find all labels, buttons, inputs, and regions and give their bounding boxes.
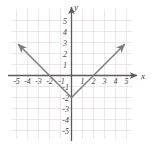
- x-tick-label: 3: [102, 77, 107, 86]
- y-tick-label: 1: [63, 61, 67, 70]
- x-tick-label: 4: [114, 77, 118, 86]
- coordinate-plane-svg: x y -5 -4 -3 -2 -1 1 2 3 4 5 5 4 3 2 1 -…: [0, 0, 157, 145]
- x-tick-label: -3: [35, 77, 42, 86]
- y-tick-label: -4: [62, 116, 69, 125]
- y-axis-label: y: [73, 2, 78, 12]
- x-tick-label: -5: [13, 77, 20, 86]
- curve-right-arm: [72, 45, 125, 98]
- y-tick-label: 2: [63, 50, 67, 59]
- x-tick-label: 5: [125, 77, 129, 86]
- x-tick-labels: -5 -4 -3 -2 -1 1 2 3 4 5: [13, 77, 128, 86]
- y-tick-label: -3: [62, 105, 69, 114]
- graph-figure: x y -5 -4 -3 -2 -1 1 2 3 4 5 5 4 3 2 1 -…: [0, 0, 157, 145]
- x-tick-label: -4: [24, 77, 31, 86]
- y-tick-label: 3: [62, 39, 67, 48]
- y-tick-label: -5: [62, 127, 69, 136]
- y-tick-label: 5: [63, 17, 67, 26]
- x-axis-label: x: [140, 71, 145, 81]
- x-tick-label: 2: [92, 77, 96, 86]
- y-tick-label: 4: [63, 28, 67, 37]
